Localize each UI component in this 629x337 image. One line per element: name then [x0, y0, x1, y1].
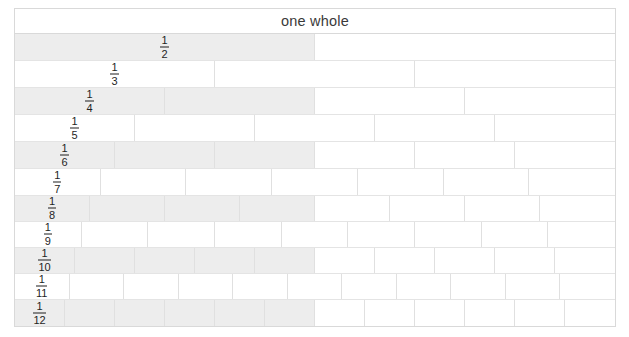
fraction-numerator: 1 — [70, 115, 78, 128]
fraction-cell-12-3[interactable] — [115, 300, 165, 326]
fraction-cell-7-1[interactable]: 17 — [15, 169, 101, 195]
fraction-cell-10-1[interactable]: 110 — [15, 248, 75, 273]
fraction-cell-12-10[interactable] — [465, 300, 515, 326]
fraction-cell-12-11[interactable] — [515, 300, 565, 326]
fraction-cell-9-3[interactable] — [148, 222, 215, 247]
fraction-cell-6-1[interactable]: 16 — [15, 142, 115, 168]
fraction-cell-12-6[interactable] — [265, 300, 315, 326]
fraction-cell-7-7[interactable] — [529, 169, 615, 195]
fraction-cell-10-5[interactable] — [255, 248, 315, 273]
fraction-cell-12-5[interactable] — [215, 300, 265, 326]
fraction-cell-10-4[interactable] — [195, 248, 255, 273]
fraction-cell-12-12[interactable] — [565, 300, 615, 326]
fraction-cell-7-3[interactable] — [186, 169, 272, 195]
fraction-denominator: 5 — [70, 128, 78, 140]
fraction-cell-8-1[interactable]: 18 — [15, 196, 90, 221]
fraction-cell-11-9[interactable] — [451, 274, 506, 299]
fraction-cell-9-6[interactable] — [348, 222, 415, 247]
fraction-cell-6-2[interactable] — [115, 142, 215, 168]
fraction-label-5: 15 — [70, 115, 78, 140]
fraction-cell-11-5[interactable] — [233, 274, 288, 299]
one-whole-header: one whole — [15, 9, 615, 34]
fraction-row-2: 12 — [15, 34, 615, 61]
fraction-cell-9-5[interactable] — [282, 222, 349, 247]
fraction-numerator: 1 — [33, 300, 45, 313]
fraction-row-7: 17 — [15, 169, 615, 196]
fraction-cell-3-2[interactable] — [215, 61, 415, 87]
fraction-label-3: 13 — [110, 61, 118, 86]
fraction-cell-10-7[interactable] — [375, 248, 435, 273]
fraction-cell-6-4[interactable] — [315, 142, 415, 168]
fraction-cell-5-3[interactable] — [255, 115, 375, 141]
fraction-cell-7-5[interactable] — [358, 169, 444, 195]
fraction-cell-8-2[interactable] — [90, 196, 165, 221]
fraction-denominator: 6 — [60, 155, 68, 167]
fraction-cell-7-4[interactable] — [272, 169, 358, 195]
fraction-cell-8-7[interactable] — [465, 196, 540, 221]
fraction-numerator: 1 — [160, 34, 168, 47]
fraction-cell-9-9[interactable] — [548, 222, 615, 247]
fraction-cell-3-3[interactable] — [415, 61, 615, 87]
fraction-cell-11-7[interactable] — [342, 274, 397, 299]
fraction-cell-12-4[interactable] — [165, 300, 215, 326]
fraction-cell-7-6[interactable] — [444, 169, 530, 195]
fraction-cell-11-1[interactable]: 111 — [15, 274, 70, 299]
fraction-cell-9-4[interactable] — [215, 222, 282, 247]
fraction-cell-11-6[interactable] — [288, 274, 343, 299]
fraction-cell-7-2[interactable] — [101, 169, 187, 195]
fraction-cell-8-8[interactable] — [540, 196, 615, 221]
fraction-cell-9-2[interactable] — [82, 222, 149, 247]
fraction-cell-4-3[interactable] — [315, 88, 465, 114]
fraction-wall-diagram: one whole 1213141516171819110111112 — [14, 8, 616, 327]
fraction-label-4: 14 — [85, 88, 93, 113]
fraction-cell-12-7[interactable] — [315, 300, 365, 326]
fraction-cell-10-9[interactable] — [495, 248, 555, 273]
fraction-cell-4-1[interactable]: 14 — [15, 88, 165, 114]
fraction-cell-12-8[interactable] — [365, 300, 415, 326]
fraction-cell-11-4[interactable] — [179, 274, 234, 299]
fraction-cell-11-3[interactable] — [124, 274, 179, 299]
fraction-cell-11-8[interactable] — [397, 274, 452, 299]
fraction-denominator: 11 — [36, 287, 47, 299]
fraction-cell-8-6[interactable] — [390, 196, 465, 221]
one-whole-label: one whole — [281, 13, 349, 29]
fraction-cell-2-2[interactable] — [315, 34, 615, 60]
fraction-cell-9-7[interactable] — [415, 222, 482, 247]
fraction-cell-2-1[interactable]: 12 — [15, 34, 315, 60]
fraction-cell-4-4[interactable] — [465, 88, 615, 114]
fraction-cell-10-6[interactable] — [315, 248, 375, 273]
fraction-cell-5-2[interactable] — [135, 115, 255, 141]
fraction-cell-11-11[interactable] — [560, 274, 615, 299]
fraction-row-5: 15 — [15, 115, 615, 142]
fraction-cell-11-10[interactable] — [506, 274, 561, 299]
fraction-cell-12-9[interactable] — [415, 300, 465, 326]
fraction-cell-11-2[interactable] — [70, 274, 125, 299]
fraction-cell-6-6[interactable] — [515, 142, 615, 168]
fraction-cell-12-2[interactable] — [65, 300, 115, 326]
fraction-cell-9-1[interactable]: 19 — [15, 222, 82, 247]
fraction-cell-8-4[interactable] — [240, 196, 315, 221]
fraction-label-7: 17 — [53, 169, 61, 194]
fraction-cell-10-3[interactable] — [135, 248, 195, 273]
fraction-cell-4-2[interactable] — [165, 88, 315, 114]
fraction-cell-10-10[interactable] — [555, 248, 615, 273]
fraction-numerator: 1 — [110, 61, 118, 74]
fraction-cell-8-5[interactable] — [315, 196, 390, 221]
fraction-cell-8-3[interactable] — [165, 196, 240, 221]
fraction-cell-5-1[interactable]: 15 — [15, 115, 135, 141]
fraction-cell-3-1[interactable]: 13 — [15, 61, 215, 87]
fraction-cell-5-5[interactable] — [495, 115, 615, 141]
fraction-cell-12-1[interactable]: 112 — [15, 300, 65, 326]
fraction-cell-10-2[interactable] — [75, 248, 135, 273]
fraction-denominator: 4 — [85, 101, 93, 113]
fraction-numerator: 1 — [44, 222, 52, 235]
fraction-numerator: 1 — [36, 274, 47, 287]
fraction-cell-6-3[interactable] — [215, 142, 315, 168]
fraction-cell-9-8[interactable] — [482, 222, 549, 247]
fraction-denominator: 10 — [38, 261, 50, 273]
fraction-row-3: 13 — [15, 61, 615, 88]
fraction-label-9: 19 — [44, 222, 52, 247]
fraction-cell-6-5[interactable] — [415, 142, 515, 168]
fraction-cell-10-8[interactable] — [435, 248, 495, 273]
fraction-cell-5-4[interactable] — [375, 115, 495, 141]
